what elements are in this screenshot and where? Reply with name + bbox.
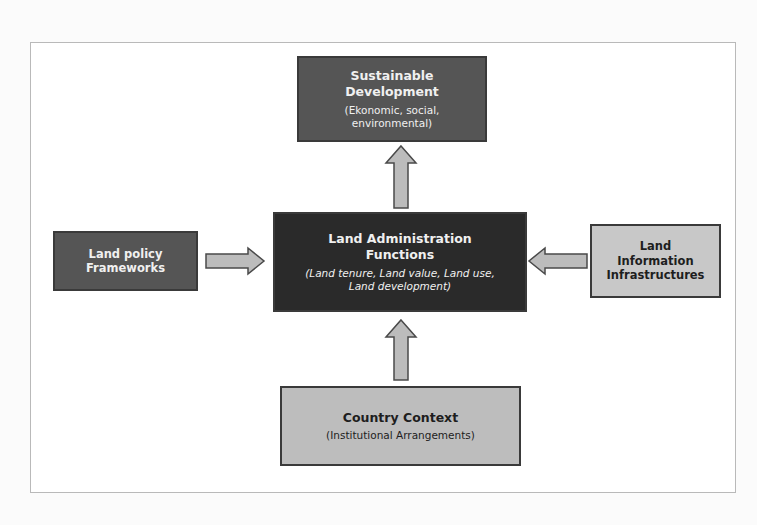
arrow-left-icon xyxy=(527,246,589,276)
arrow-right-icon xyxy=(204,246,266,276)
node-country-context: Country Context (Institutional Arrangeme… xyxy=(280,386,521,466)
title-line: Information xyxy=(607,254,705,268)
subtitle-line: (Ekonomic, social, xyxy=(345,104,440,117)
title-line: Infrastructures xyxy=(607,268,705,282)
title-line: Frameworks xyxy=(86,261,165,275)
title-line: Land xyxy=(607,239,705,253)
node-land-policy-frameworks: Land policy Frameworks xyxy=(53,231,198,291)
subtitle-line: Land development) xyxy=(305,280,495,293)
title-line: Development xyxy=(345,84,439,100)
arrow-up-icon xyxy=(384,318,418,382)
node-title: Sustainable Development xyxy=(345,68,439,99)
subtitle-line: environmental) xyxy=(345,117,440,130)
node-sustainable-development: Sustainable Development (Ekonomic, socia… xyxy=(297,56,487,142)
node-land-information-infrastructures: Land Information Infrastructures xyxy=(590,224,721,298)
node-title: Country Context xyxy=(343,410,458,426)
node-title: Land Information Infrastructures xyxy=(607,239,705,282)
title-line: Sustainable xyxy=(345,68,439,84)
node-title: Land policy Frameworks xyxy=(86,247,165,276)
title-line: Land Administration xyxy=(328,231,471,247)
node-subtitle: (Institutional Arrangements) xyxy=(326,429,475,442)
node-title: Land Administration Functions xyxy=(328,231,471,262)
subtitle-line: (Land tenure, Land value, Land use, xyxy=(305,267,495,280)
title-line: Functions xyxy=(328,247,471,263)
node-subtitle: (Ekonomic, social, environmental) xyxy=(345,104,440,130)
title-line: Land policy xyxy=(86,247,165,261)
node-land-administration-functions: Land Administration Functions (Land tenu… xyxy=(273,212,527,312)
arrow-up-icon xyxy=(384,144,418,210)
node-subtitle: (Land tenure, Land value, Land use, Land… xyxy=(305,267,495,293)
